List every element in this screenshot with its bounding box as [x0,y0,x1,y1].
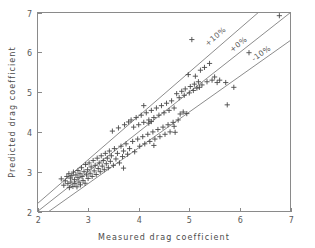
data-point-marker [202,65,207,70]
data-point-marker [207,61,212,66]
data-points [59,13,282,190]
data-point-marker [157,134,162,139]
data-point-marker [215,80,220,85]
reference-line [38,0,291,204]
data-point-marker [191,88,196,93]
data-point-marker [109,153,114,158]
data-point-marker [112,146,117,151]
data-point-marker [165,122,170,127]
data-point-marker [171,120,176,125]
y-tick-label: 3 [27,169,33,178]
reference-line [38,40,291,219]
data-point-marker [127,146,132,151]
data-point-marker [194,86,199,91]
x-tick-label: 3 [86,216,92,225]
data-point-marker [135,136,140,141]
data-point-marker [173,130,178,135]
data-point-marker [151,115,156,120]
data-point-marker [231,85,236,90]
x-tick-label: 7 [289,216,295,225]
data-point-marker [140,134,145,139]
data-point-marker [132,149,137,154]
data-point-marker [79,165,84,170]
data-point-marker [154,105,159,110]
x-tick-label: 5 [187,216,193,225]
data-point-marker [159,103,164,108]
data-point-marker [99,153,104,158]
reference-line-label: +10% [203,25,228,48]
data-point-marker [91,158,96,163]
data-point-marker [225,102,230,107]
data-point-marker [107,148,112,153]
data-point-marker [164,101,169,106]
data-point-marker [198,68,203,73]
data-point-marker [188,84,193,89]
y-tick-label: 6 [27,49,33,58]
y-tick-label: 4 [27,129,33,138]
data-point-marker [131,125,136,130]
data-point-marker [108,159,113,164]
data-point-marker [277,13,282,18]
x-tick-label: 6 [238,216,244,225]
data-point-marker [151,143,156,148]
data-point-marker [103,151,108,156]
data-point-marker [209,78,214,83]
data-point-marker [121,148,126,153]
data-point-marker [95,156,100,161]
y-tick-label: 2 [27,209,33,218]
data-point-marker [121,166,126,171]
data-point-marker [136,122,141,127]
data-point-marker [172,105,177,110]
data-point-marker [177,95,182,100]
x-axis-title: Measured drag coefficient [98,233,230,242]
data-point-marker [212,74,217,79]
data-point-marker [149,108,154,113]
data-point-marker [167,129,172,134]
data-point-marker [130,139,135,144]
data-point-marker [116,125,121,130]
data-point-marker [125,152,130,157]
data-point-marker [223,80,228,85]
reference-line-label: +0% [228,35,249,54]
reference-line-label: -10% [250,44,273,64]
data-point-marker [186,72,191,77]
scatter-plot: 234567 234567 +10%+0%-10% Measured drag … [0,0,315,248]
data-point-marker [141,103,146,108]
data-point-marker [141,120,146,125]
data-point-marker [117,160,122,165]
data-point-marker [115,151,120,156]
data-point-marker [145,132,150,137]
data-point-marker [174,91,179,96]
data-point-marker [193,74,198,79]
chart-figure: 234567 234567 +10%+0%-10% Measured drag … [0,0,315,248]
y-tick-labels: 234567 [27,10,33,218]
y-tick-label: 5 [27,89,33,98]
data-point-marker [110,129,115,134]
x-tick-label: 4 [137,216,143,225]
data-point-marker [139,113,144,118]
x-tick-labels: 234567 [36,216,295,225]
data-point-marker [169,98,174,103]
y-tick-label: 7 [27,10,33,19]
data-point-marker [166,108,171,113]
x-tick-label: 2 [36,216,42,225]
data-point-marker [147,139,152,144]
y-axis-title: Predicted drag coefficient [8,46,17,177]
data-point-marker [105,156,110,161]
data-point-marker [162,132,167,137]
data-point-marker [150,129,155,134]
data-point-marker [155,127,160,132]
data-point-marker [217,78,222,83]
data-point-marker [183,86,188,91]
data-point-marker [179,89,184,94]
data-point-marker [192,82,197,87]
data-point-marker [123,141,128,146]
data-point-marker [189,37,194,42]
data-point-marker [113,156,118,161]
